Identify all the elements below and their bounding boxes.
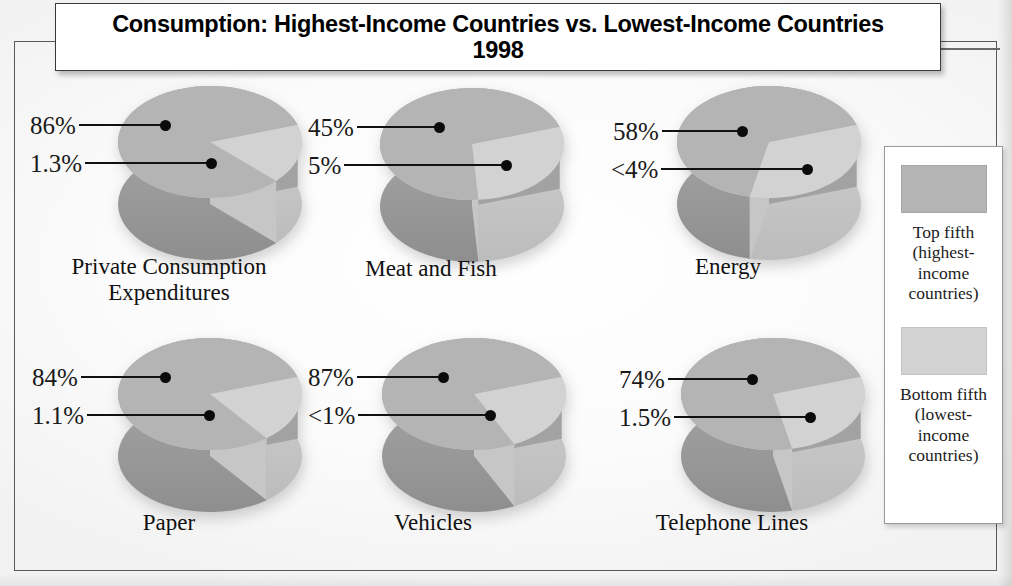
caption-line-1: Energy bbox=[583, 254, 873, 280]
top-fifth-callout: 45% bbox=[308, 114, 445, 140]
top-fifth-value: 87% bbox=[308, 365, 354, 390]
caption-line-1: Vehicles bbox=[288, 510, 578, 536]
legend-swatch bbox=[901, 327, 987, 375]
leader-dot bbox=[434, 122, 445, 133]
legend-item-bottom-fifth: Bottom fifth (lowest- income countries) bbox=[885, 327, 1002, 465]
legend: Top fifth (highest- income countries)Bot… bbox=[884, 146, 1003, 524]
bottom-fifth-value: <4% bbox=[611, 157, 658, 182]
leader-line bbox=[357, 126, 435, 128]
bottom-fifth-callout: 1.5% bbox=[619, 404, 816, 430]
caption-line-1: Telephone Lines bbox=[587, 510, 877, 536]
title-line-1: Consumption: Highest-Income Countries vs… bbox=[112, 11, 884, 37]
top-fifth-callout: 84% bbox=[32, 364, 171, 390]
caption-line-1: Paper bbox=[24, 510, 314, 536]
top-fifth-callout: 58% bbox=[613, 118, 748, 144]
leader-line bbox=[668, 378, 748, 380]
pie-chart-private-consumption-expenditures: 86%1.3%Private ConsumptionExpenditures bbox=[24, 72, 314, 320]
pie-chart-vehicles: 87%<1%Vehicles bbox=[288, 324, 578, 572]
title-line-2: 1998 bbox=[472, 37, 523, 63]
pie-chart-paper: 84%1.1%Paper bbox=[24, 324, 314, 572]
chart-page: Consumption: Highest-Income Countries vs… bbox=[0, 0, 1012, 586]
pie-chart-energy: 58%<4%Energy bbox=[583, 72, 873, 320]
bottom-fifth-callout: 5% bbox=[308, 152, 512, 178]
caption-line-1: Meat and Fish bbox=[286, 256, 576, 282]
top-fifth-value: 45% bbox=[308, 115, 354, 140]
leader-dot bbox=[805, 412, 816, 423]
top-fifth-callout: 74% bbox=[619, 366, 758, 392]
leader-dot bbox=[160, 372, 171, 383]
pie-chart-telephone-lines: 74%1.5%Telephone Lines bbox=[587, 324, 877, 572]
bottom-fifth-value: 1.1% bbox=[32, 403, 84, 428]
top-fifth-value: 74% bbox=[619, 367, 665, 392]
leader-dot bbox=[802, 164, 813, 175]
chart-title: Consumption: Highest-Income Countries vs… bbox=[102, 11, 894, 64]
page-bottom-shadow bbox=[0, 574, 1012, 586]
chart-caption: Telephone Lines bbox=[587, 510, 877, 536]
leader-line bbox=[344, 164, 502, 166]
leader-line bbox=[357, 376, 439, 378]
chart-caption: Meat and Fish bbox=[286, 256, 576, 282]
frame-right-stub bbox=[940, 48, 1000, 50]
top-fifth-value: 86% bbox=[30, 113, 76, 138]
leader-line bbox=[85, 162, 207, 164]
title-box: Consumption: Highest-Income Countries vs… bbox=[55, 3, 941, 71]
legend-label: Top fifth (highest- income countries) bbox=[909, 222, 979, 303]
leader-line bbox=[662, 130, 738, 132]
top-fifth-callout: 86% bbox=[30, 112, 171, 138]
legend-label: Bottom fifth (lowest- income countries) bbox=[900, 384, 987, 465]
bottom-fifth-callout: <4% bbox=[611, 156, 813, 182]
caption-line-2: Expenditures bbox=[24, 280, 314, 306]
legend-swatch bbox=[901, 165, 987, 213]
leader-dot bbox=[206, 158, 217, 169]
leader-dot bbox=[160, 120, 171, 131]
chart-caption: Vehicles bbox=[288, 510, 578, 536]
bottom-fifth-callout: 1.3% bbox=[30, 150, 217, 176]
chart-caption: Energy bbox=[583, 254, 873, 280]
leader-dot bbox=[438, 372, 449, 383]
leader-line bbox=[358, 414, 486, 416]
top-fifth-value: 84% bbox=[32, 365, 78, 390]
bottom-fifth-value: 5% bbox=[308, 153, 341, 178]
legend-item-top-fifth: Top fifth (highest- income countries) bbox=[885, 165, 1002, 303]
bottom-fifth-value: <1% bbox=[308, 403, 355, 428]
top-fifth-value: 58% bbox=[613, 119, 659, 144]
chart-caption: Private ConsumptionExpenditures bbox=[24, 254, 314, 306]
bottom-fifth-callout: <1% bbox=[308, 402, 496, 428]
leader-dot bbox=[485, 410, 496, 421]
charts-area: 86%1.3%Private ConsumptionExpenditures 4… bbox=[14, 72, 879, 569]
leader-line bbox=[87, 414, 205, 416]
chart-caption: Paper bbox=[24, 510, 314, 536]
pie-chart-meat-and-fish: 45%5%Meat and Fish bbox=[286, 74, 576, 322]
leader-line bbox=[81, 376, 161, 378]
bottom-fifth-value: 1.5% bbox=[619, 405, 671, 430]
leader-dot bbox=[747, 374, 758, 385]
leader-line bbox=[79, 124, 161, 126]
leader-line bbox=[661, 168, 803, 170]
caption-line-1: Private Consumption bbox=[24, 254, 314, 280]
leader-dot bbox=[501, 160, 512, 171]
leader-dot bbox=[204, 410, 215, 421]
leader-line bbox=[674, 416, 806, 418]
bottom-fifth-value: 1.3% bbox=[30, 151, 82, 176]
top-fifth-callout: 87% bbox=[308, 364, 449, 390]
bottom-fifth-callout: 1.1% bbox=[32, 402, 215, 428]
leader-dot bbox=[737, 126, 748, 137]
